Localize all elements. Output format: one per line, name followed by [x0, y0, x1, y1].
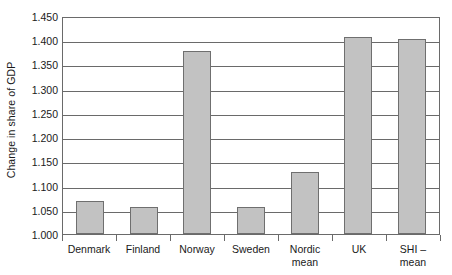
- x-axis-category-label-line: Denmark: [68, 243, 111, 255]
- x-axis-category-label-line: mean: [386, 256, 440, 269]
- bar-slot: [278, 18, 332, 234]
- x-axis-category-label-line: Sweden: [232, 243, 270, 255]
- x-axis-category-label-line: Norway: [179, 243, 215, 255]
- x-axis-category-label: Finland: [116, 241, 170, 275]
- bar: [344, 37, 372, 234]
- x-axis-category-label: UK: [332, 241, 386, 275]
- y-axis-tick-label: 1.300: [32, 84, 58, 96]
- x-axis-category-label-line: Nordic: [290, 243, 320, 255]
- y-axis-tick-label: 1.400: [32, 35, 58, 47]
- x-axis-category-label-line: Finland: [126, 243, 160, 255]
- bar-slot: [63, 18, 117, 234]
- bar-slot: [332, 18, 386, 234]
- x-axis-category-label: SHI –mean: [386, 241, 440, 275]
- bar-slot: [117, 18, 171, 234]
- bar-slot: [170, 18, 224, 234]
- x-axis-tick: [440, 235, 441, 241]
- bar: [130, 207, 158, 234]
- y-axis-tick-label: 1.150: [32, 156, 58, 168]
- y-axis-tick-label: 1.250: [32, 108, 58, 120]
- bar: [237, 207, 265, 234]
- bar-chart: Change in share of GDP 1.4501.4001.3501.…: [0, 0, 452, 275]
- bar-slot: [224, 18, 278, 234]
- x-axis-category-label-line: UK: [352, 243, 367, 255]
- bar: [398, 39, 426, 234]
- y-axis-tick-labels: 1.4501.4001.3501.3001.2501.2001.1501.100…: [20, 17, 60, 235]
- x-axis-category-label: Denmark: [62, 241, 116, 275]
- x-axis-category-label: Sweden: [224, 241, 278, 275]
- y-axis-title-text: Change in share of GDP: [5, 62, 17, 179]
- bar-slot: [385, 18, 439, 234]
- x-axis-labels: DenmarkFinlandNorwaySwedenNordicmeanUKSH…: [62, 241, 440, 275]
- x-axis-category-label-line: SHI –: [400, 243, 426, 255]
- x-axis-category-label: Norway: [170, 241, 224, 275]
- y-axis-title: Change in share of GDP: [0, 0, 22, 240]
- bar: [76, 201, 104, 234]
- x-axis-category-label: Nordicmean: [278, 241, 332, 275]
- x-axis-category-label-line: mean: [278, 256, 332, 269]
- y-axis-tick-label: 1.200: [32, 132, 58, 144]
- bars-layer: [63, 18, 439, 234]
- bar: [183, 51, 211, 234]
- bar: [291, 172, 319, 234]
- plot-area: [62, 17, 440, 235]
- y-axis-tick-label: 1.350: [32, 59, 58, 71]
- y-axis-tick-label: 1.050: [32, 205, 58, 217]
- y-axis-tick-label: 1.100: [32, 181, 58, 193]
- y-axis-tick-label: 1.000: [32, 229, 58, 241]
- y-axis-tick-label: 1.450: [32, 11, 58, 23]
